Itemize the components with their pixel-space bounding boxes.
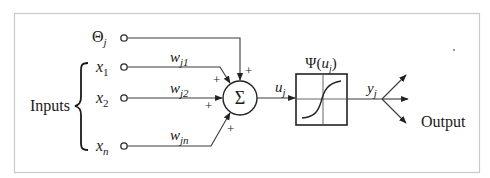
plus-sign-x2: +: [205, 98, 212, 113]
neuron-diagram: Inputs Θj x1 x2 xn wj1 wj2 wjn + + + + Σ: [0, 0, 490, 178]
inputs-group-label: Inputs: [30, 97, 70, 115]
input-x1-terminal: [121, 64, 127, 70]
bias-terminal: [121, 35, 127, 41]
input-xn-terminal: [121, 143, 127, 149]
stray-dot: [453, 49, 455, 51]
plus-sign-xn: +: [227, 121, 234, 136]
sigma-symbol: Σ: [235, 88, 245, 108]
plus-sign-x1: +: [213, 72, 220, 87]
input-x2-terminal: [121, 95, 127, 101]
plus-sign-bias: +: [245, 63, 252, 78]
output-label: Output: [421, 113, 466, 131]
